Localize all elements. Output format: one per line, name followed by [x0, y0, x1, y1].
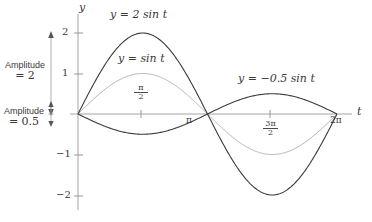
y-axis-label: y — [79, 2, 85, 13]
amplitude-2-arrow-top — [48, 31, 54, 38]
three-half-pi-denominator: 2 — [263, 129, 278, 137]
x-axis-label: t — [357, 106, 361, 117]
half-pi-numerator: π — [134, 84, 148, 92]
y-tick-label-2: 2 — [62, 27, 68, 37]
y-tick-label-neg-1: −1 — [56, 149, 71, 159]
amplitude-05-arrow-bottom — [48, 121, 53, 127]
x-tick-label-pi: π — [186, 116, 192, 125]
curve-label-neg-half-sin-t: y = −0.5 sin t — [238, 73, 315, 84]
annotation-amplitude-0-5: Amplitude = 0.5 — [0, 106, 48, 129]
amplitude-05-line2: = 0.5 — [0, 116, 48, 129]
x-tick-label-half-pi: π 2 — [134, 84, 148, 102]
curve-label-two-sin-t: y = 2 sin t — [110, 9, 167, 20]
figure-canvas: y t 2 1 −1 −2 π 2 π 3π 2 2π y = 2 sin t … — [0, 0, 372, 222]
curve-sin-t — [78, 94, 123, 115]
half-pi-denominator: 2 — [134, 93, 148, 101]
y-tick-label-neg-2: −2 — [56, 190, 71, 200]
annotation-amplitude-2: Amplitude = 2 — [2, 60, 48, 83]
amplitude-2-line2: = 2 — [2, 70, 48, 83]
amplitude-05-arrow-top — [48, 101, 53, 107]
curve-label-sin-t: y = sin t — [118, 53, 165, 64]
three-half-pi-numerator: 3π — [263, 120, 278, 128]
y-tick-label-1: 1 — [62, 68, 68, 78]
x-tick-label-three-half-pi: 3π 2 — [263, 120, 278, 138]
x-tick-label-two-pi: 2π — [330, 116, 342, 125]
